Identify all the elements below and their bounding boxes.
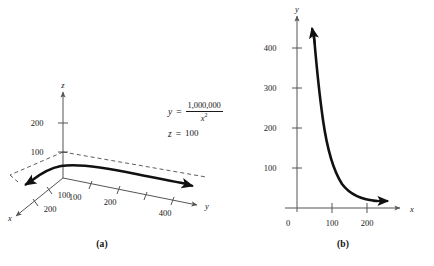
curve-a-arrow-end [185,184,193,186]
curve-b-arrow-start [312,28,315,44]
plot-b-svg: 400 300 200 100 y 100 200 0 x [240,0,434,240]
caption-b: (b) [246,239,434,249]
curve-b-path [314,36,377,201]
equation-numerator: 1,000,000 [186,101,223,111]
axis-x-label: x [7,213,12,223]
axis-y-tick-300 [144,192,147,200]
axis-x: 100 200 x [7,178,70,223]
axis-y-b-label: y [294,4,299,14]
panel-b-2d-plot: 400 300 200 100 y 100 200 0 x [240,0,434,266]
axis-x-b: 100 200 0 x [285,203,414,228]
axis-origin-label: 0 [286,218,290,228]
curve-a-path [31,165,187,184]
curve-b [312,28,388,201]
curve-a [25,165,193,186]
equation-z-equals: = [176,129,181,139]
axis-y-b-tick-label-400: 400 [264,43,277,53]
equation-z-variable: z [168,129,172,139]
axis-y-tick-label-200: 200 [104,197,117,207]
equation-fraction: 1,000,000 x2 [186,101,223,124]
panel-a-3d-plot: 200 100 z 100 200 400 y 100 [0,0,240,266]
equation-y-equals: = [176,107,181,117]
axis-z-label: z [60,80,65,90]
axis-x-tick-label-100: 100 [58,190,71,200]
axis-y-b: 400 300 200 100 y [264,4,302,212]
figure-root: 200 100 z 100 200 400 y 100 [0,0,434,266]
axis-y-b-tick-label-300: 300 [264,83,277,93]
equation-z-value: 100 [185,129,199,139]
axis-y-tick-200 [117,186,120,194]
axis-y-tick-400 [171,197,174,205]
axis-x-b-tick-label-100: 100 [326,218,339,228]
axis-x-b-label: x [409,204,414,214]
equation-denominator: x2 [201,112,208,124]
equation-denominator-exponent: 2 [205,112,208,118]
caption-a: (a) [0,239,222,249]
axis-z-tick-label-200: 200 [31,118,44,128]
axis-y-tick-100 [89,181,92,189]
axis-x-tick-label-200: 200 [44,204,57,214]
axis-y-tick-label-100: 100 [69,192,82,202]
axis-y-tick-label-400: 400 [159,208,172,218]
axis-y-b-tick-label-200: 200 [264,123,277,133]
axis-z-tick-label-100: 100 [31,147,44,157]
curve-a-arrow-start [25,180,33,185]
equation-y-variable: y [168,107,172,117]
axis-y-label: y [204,201,209,211]
axis-y-b-tick-label-100: 100 [264,163,277,173]
plane-edge-corner [10,175,18,182]
axis-x-b-tick-label-200: 200 [361,218,374,228]
